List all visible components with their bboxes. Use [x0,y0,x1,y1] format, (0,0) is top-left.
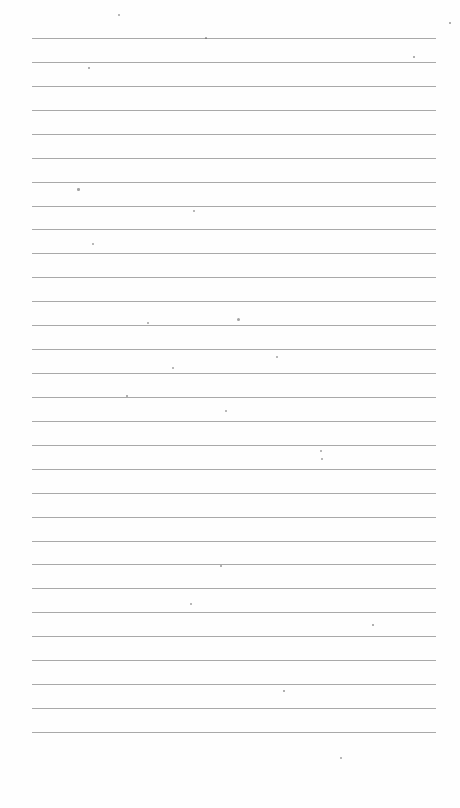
paper-speck [340,757,342,759]
ruled-line [32,612,436,613]
ruled-line [32,182,436,183]
ruled-line [32,301,436,302]
paper-speck [225,410,227,412]
paper-speck [147,322,149,324]
ruled-line [32,325,436,326]
ruled-line [32,86,436,87]
ruled-line [32,373,436,374]
paper-speck [237,318,240,321]
paper-speck [126,395,128,397]
ruled-line [32,110,436,111]
ruled-line [32,206,436,207]
paper-speck [190,603,192,605]
ruled-line [32,62,436,63]
paper-speck [413,56,415,58]
paper-speck [193,210,195,212]
paper-speck [321,458,323,460]
paper-speck [92,243,94,245]
ruled-line [32,684,436,685]
ruled-line [32,588,436,589]
paper-speck [205,37,207,39]
ruled-line [32,397,436,398]
ruled-line [32,158,436,159]
ruled-line [32,732,436,733]
ruled-line [32,349,436,350]
ruled-line [32,564,436,565]
ruled-line [32,517,436,518]
ruled-line [32,493,436,494]
paper-speck [118,14,120,16]
paper-speck [220,565,222,567]
ruled-line [32,38,436,39]
ruled-line [32,229,436,230]
ruled-line [32,469,436,470]
paper-speck [88,67,90,69]
ruled-line [32,253,436,254]
ruled-line [32,421,436,422]
ruled-line [32,636,436,637]
paper-speck [172,367,174,369]
lined-paper [0,0,460,808]
ruled-line [32,708,436,709]
ruled-line [32,660,436,661]
ruled-line [32,445,436,446]
paper-speck [276,356,278,358]
ruled-line [32,541,436,542]
ruled-line [32,277,436,278]
paper-speck [283,690,285,692]
paper-speck [320,450,322,452]
ruled-line [32,134,436,135]
paper-speck [77,188,80,191]
paper-speck [372,624,374,626]
paper-speck [449,22,451,24]
